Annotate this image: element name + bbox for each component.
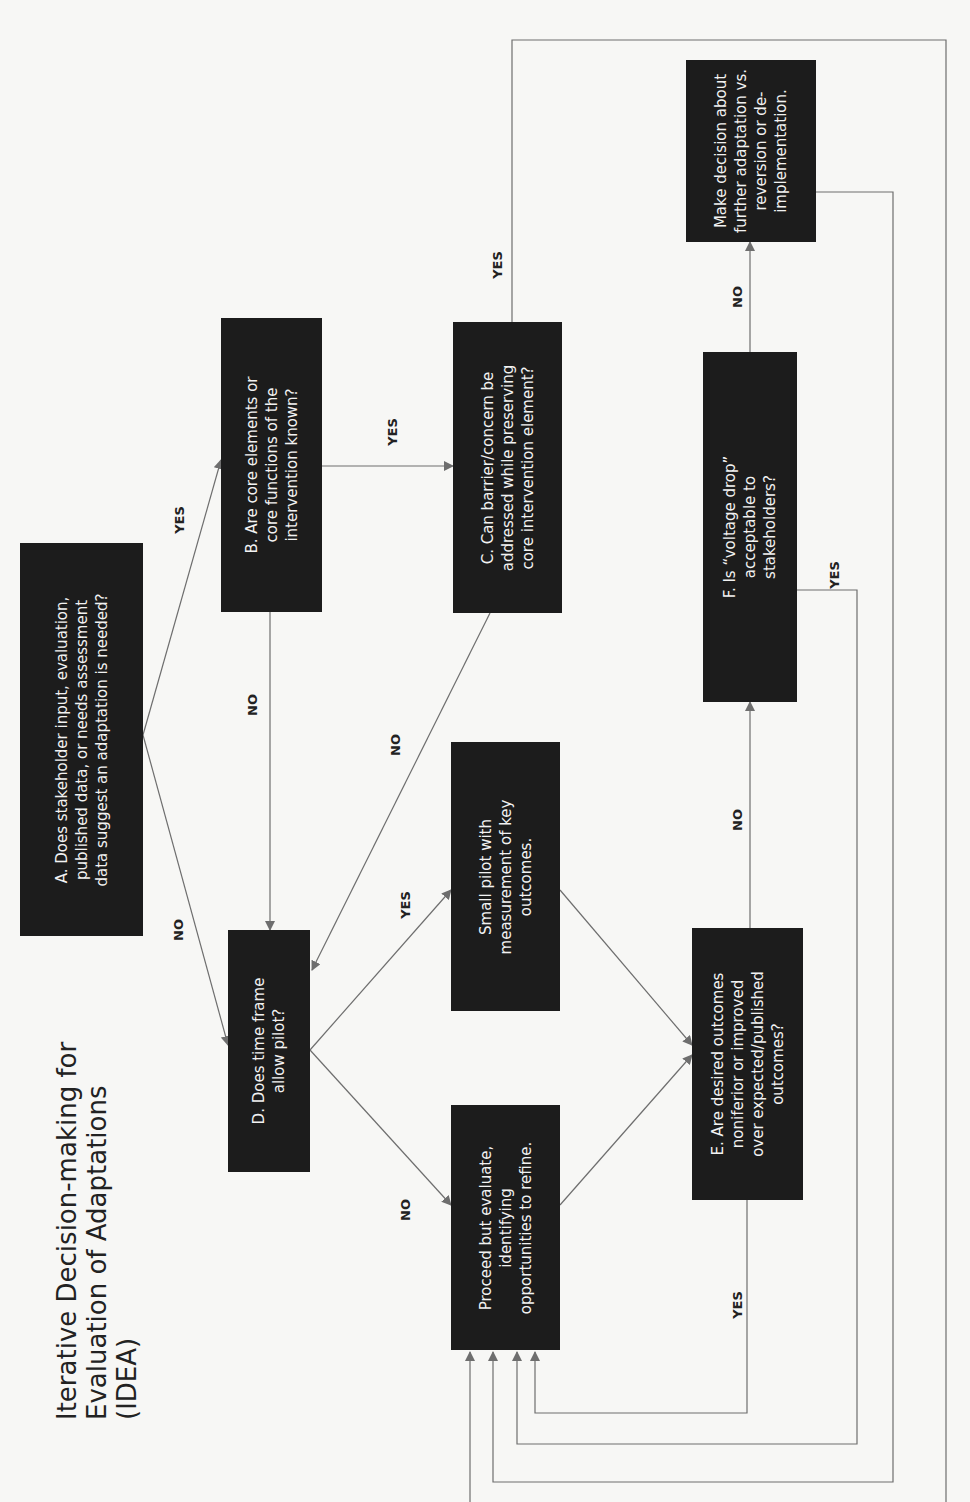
label-f-decision-no: NO [730,286,745,308]
node-e-text: E. Are desired outcomes noniferior or im… [708,932,788,1197]
node-make-decision: Make decision about further adaptation v… [686,60,816,242]
node-f-voltage-drop: F. Is “voltage drop” acceptable to stake… [703,352,797,702]
figure-caption-cropped [955,750,970,1500]
label-e-f-no: NO [730,809,745,831]
label-b-c-yes: YES [385,418,400,446]
node-proceed-evaluate: Proceed but evaluate, identifying opport… [451,1105,560,1350]
node-b-text: B. Are core elements or core functions o… [242,325,302,605]
label-e-loop-yes: YES [730,1291,745,1319]
node-c-barrier-addressable: C. Can barrier/concern be addressed whil… [453,322,562,613]
node-a-text: A. Does stakeholder input, evaluation, p… [52,550,112,930]
label-a-d-no: NO [171,919,186,941]
node-a-adaptation-needed: A. Does stakeholder input, evaluation, p… [20,543,143,936]
label-c-d-no: NO [388,734,403,756]
node-b-core-elements-known: B. Are core elements or core functions o… [221,318,322,612]
node-e-outcomes-noninferior: E. Are desired outcomes noniferior or im… [692,928,803,1200]
label-a-b-yes: YES [172,506,187,534]
node-small-pilot: Small pilot with measurement of key outc… [451,742,560,1011]
node-decision-text: Make decision about further adaptation v… [711,61,791,241]
node-d-time-frame-pilot: D. Does time frame allow pilot? [228,930,310,1172]
label-d-pilot-yes: YES [398,891,413,919]
label-d-proceed-no: NO [398,1199,413,1221]
idea-flowchart: Iterative Decision-making for Evaluation… [0,0,970,1502]
label-b-d-no: NO [245,694,260,716]
node-d-text: D. Does time frame allow pilot? [249,936,289,1166]
node-proceed-text: Proceed but evaluate, identifying opport… [476,1108,536,1348]
label-f-loop-yes: YES [827,561,842,589]
node-small-pilot-text: Small pilot with measurement of key outc… [476,747,536,1007]
label-c-loop-yes: YES [490,251,505,279]
node-c-text: C. Can barrier/concern be addressed whil… [478,328,538,608]
diagram-title: Iterative Decision-making for Evaluation… [52,990,142,1420]
node-f-text: F. Is “voltage drop” acceptable to stake… [720,427,780,627]
